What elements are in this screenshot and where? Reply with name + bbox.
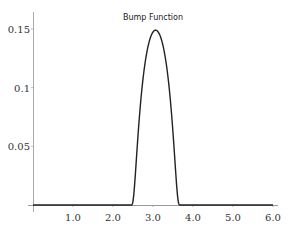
x-tick-label: 1.0 bbox=[65, 212, 81, 223]
y-tick-label: 0.15 bbox=[8, 24, 30, 35]
x-tick-labels: 1.02.03.04.05.06.0 bbox=[65, 205, 281, 223]
x-tick-label: 2.0 bbox=[105, 212, 121, 223]
chart-title: Bump Function bbox=[123, 13, 183, 22]
y-tick-label: 0.05 bbox=[8, 141, 30, 152]
bump-curve bbox=[33, 30, 273, 205]
y-tick-label: 0.1 bbox=[14, 83, 30, 94]
x-tick-label: 5.0 bbox=[225, 212, 241, 223]
x-tick-label: 6.0 bbox=[265, 212, 281, 223]
x-tick-label: 4.0 bbox=[185, 212, 201, 223]
x-tick-label: 3.0 bbox=[145, 212, 161, 223]
bump-function-chart: Bump Function 1.02.03.04.05.06.0 0.050.1… bbox=[0, 0, 293, 228]
y-tick-labels: 0.050.10.15 bbox=[8, 24, 34, 152]
